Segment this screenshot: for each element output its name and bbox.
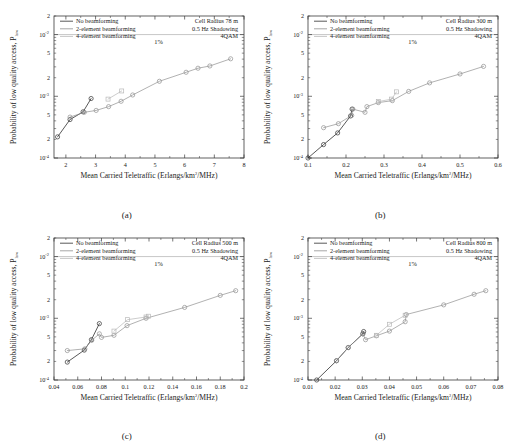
svg-text:10-4: 10-4 — [293, 154, 304, 161]
svg-text:0.04: 0.04 — [384, 382, 395, 389]
svg-text:8: 8 — [242, 161, 245, 168]
caption-d: (d) — [254, 431, 507, 441]
svg-text:1%: 1% — [154, 38, 163, 45]
svg-text:1%: 1% — [154, 259, 163, 266]
svg-text:4QAM: 4QAM — [220, 32, 238, 39]
svg-text:Cell Radius 800 m: Cell Radius 800 m — [445, 239, 491, 246]
svg-text:2: 2 — [300, 234, 303, 241]
panel-c: 0.040.060.080.10.120.140.160.180.210-210… — [0, 222, 254, 443]
svg-text:0.2: 0.2 — [240, 382, 248, 389]
svg-text:2: 2 — [300, 135, 303, 142]
plot-b: 0.10.20.30.40.50.610-210-310-422255No be… — [254, 0, 507, 222]
svg-text:2-element beamforming: 2-element beamforming — [330, 246, 390, 253]
svg-text:4QAM: 4QAM — [220, 254, 238, 261]
svg-text:2: 2 — [47, 234, 50, 241]
panel-b: 0.10.20.30.40.50.610-210-310-422255No be… — [254, 0, 507, 222]
svg-text:2: 2 — [47, 12, 50, 19]
svg-text:2: 2 — [64, 161, 67, 168]
svg-text:3: 3 — [94, 161, 97, 168]
svg-text:0.4: 0.4 — [418, 161, 426, 168]
svg-text:0.12: 0.12 — [144, 382, 155, 389]
svg-text:0.08: 0.08 — [96, 382, 107, 389]
svg-text:0.5 Hz Shadowing: 0.5 Hz Shadowing — [192, 25, 238, 32]
svg-text:2-element beamforming: 2-element beamforming — [76, 246, 136, 253]
svg-text:Probability of low quality acc: Probability of low quality access, Plow — [263, 251, 273, 366]
svg-text:5: 5 — [300, 111, 303, 118]
svg-text:6: 6 — [183, 161, 186, 168]
svg-text:0.01: 0.01 — [302, 382, 313, 389]
caption-a: (a) — [0, 210, 254, 220]
svg-text:Mean Carried Teletraffic (Erl: Mean Carried Teletraffic (Erlangs/km2/MH… — [81, 171, 218, 180]
svg-text:Mean Carried Teletraffic (Erl: Mean Carried Teletraffic (Erlangs/km2/MH… — [334, 171, 471, 180]
svg-text:5: 5 — [47, 49, 50, 56]
svg-text:0.1: 0.1 — [121, 382, 129, 389]
svg-text:10-2: 10-2 — [293, 252, 303, 259]
svg-text:No beamforming: No beamforming — [330, 239, 372, 246]
svg-text:10-2: 10-2 — [39, 30, 49, 37]
panel-d: 0.010.020.030.040.050.060.070.0810-210-3… — [254, 222, 507, 443]
plot-d: 0.010.020.030.040.050.060.070.0810-210-3… — [254, 222, 507, 443]
svg-text:0.06: 0.06 — [72, 382, 83, 389]
svg-text:0.05: 0.05 — [411, 382, 422, 389]
svg-text:2: 2 — [47, 357, 50, 364]
svg-text:Cell Radius 500 m: Cell Radius 500 m — [192, 239, 238, 246]
svg-text:10-3: 10-3 — [39, 314, 50, 321]
svg-text:0.2: 0.2 — [342, 161, 350, 168]
svg-text:5: 5 — [47, 332, 50, 339]
svg-text:1%: 1% — [408, 38, 417, 45]
svg-text:0.6: 0.6 — [494, 161, 502, 168]
svg-text:0.1: 0.1 — [304, 161, 312, 168]
svg-text:5: 5 — [47, 271, 50, 278]
svg-text:2: 2 — [300, 295, 303, 302]
svg-text:0.08: 0.08 — [492, 382, 503, 389]
svg-text:0.07: 0.07 — [465, 382, 476, 389]
svg-text:5: 5 — [300, 271, 303, 278]
svg-text:0.5: 0.5 — [456, 161, 464, 168]
svg-text:Cell Radius 78 m: Cell Radius 78 m — [195, 17, 238, 24]
svg-text:10-2: 10-2 — [293, 30, 303, 37]
svg-text:0.5 Hz Shadowing: 0.5 Hz Shadowing — [446, 246, 492, 253]
svg-text:2-element beamforming: 2-element beamforming — [330, 25, 390, 32]
svg-text:10-4: 10-4 — [39, 154, 50, 161]
svg-text:0.18: 0.18 — [215, 382, 226, 389]
svg-text:7: 7 — [213, 161, 216, 168]
svg-text:2: 2 — [300, 357, 303, 364]
svg-text:0.5 Hz Shadowing: 0.5 Hz Shadowing — [446, 25, 492, 32]
caption-b: (b) — [254, 210, 507, 220]
svg-text:No beamforming: No beamforming — [76, 17, 118, 24]
svg-text:Probability of low quality acc: Probability of low quality access, Plow — [9, 29, 19, 144]
svg-text:10-3: 10-3 — [293, 314, 304, 321]
svg-text:No beamforming: No beamforming — [76, 239, 118, 246]
svg-text:Mean Carried Teletraffic (Erl: Mean Carried Teletraffic (Erlangs/km2/MH… — [334, 392, 471, 401]
svg-text:0.5 Hz Shadowing: 0.5 Hz Shadowing — [192, 246, 238, 253]
svg-text:0.14: 0.14 — [167, 382, 178, 389]
svg-text:10-3: 10-3 — [39, 92, 50, 99]
svg-text:4-element beamforming: 4-element beamforming — [76, 254, 136, 261]
figure-grid: 234567810-210-310-422255No beamforming2-… — [0, 0, 507, 443]
svg-text:4-element beamforming: 4-element beamforming — [76, 32, 136, 39]
svg-text:2: 2 — [47, 135, 50, 142]
svg-text:2: 2 — [300, 74, 303, 81]
svg-text:0.06: 0.06 — [438, 382, 449, 389]
plot-c: 0.040.060.080.10.120.140.160.180.210-210… — [0, 222, 254, 443]
svg-text:0.03: 0.03 — [356, 382, 367, 389]
svg-text:5: 5 — [300, 332, 303, 339]
svg-text:4-element beamforming: 4-element beamforming — [330, 32, 390, 39]
caption-c: (c) — [0, 431, 254, 441]
svg-text:No beamforming: No beamforming — [330, 17, 372, 24]
svg-text:5: 5 — [47, 111, 50, 118]
svg-text:0.3: 0.3 — [380, 161, 388, 168]
svg-text:5: 5 — [153, 161, 156, 168]
svg-text:2: 2 — [300, 12, 303, 19]
svg-text:10-2: 10-2 — [39, 252, 49, 259]
svg-text:0.16: 0.16 — [191, 382, 202, 389]
svg-text:Cell Radius 300 m: Cell Radius 300 m — [445, 17, 491, 24]
svg-text:5: 5 — [300, 49, 303, 56]
svg-text:1%: 1% — [408, 259, 417, 266]
svg-text:0.04: 0.04 — [49, 382, 60, 389]
svg-text:0.02: 0.02 — [329, 382, 340, 389]
svg-text:4-element beamforming: 4-element beamforming — [330, 254, 390, 261]
plot-a: 234567810-210-310-422255No beamforming2-… — [0, 0, 254, 222]
svg-text:Mean Carried Teletraffic (Erl: Mean Carried Teletraffic (Erlangs/km2/MH… — [81, 392, 218, 401]
svg-text:Probability of low quality acc: Probability of low quality access, Plow — [263, 29, 273, 144]
